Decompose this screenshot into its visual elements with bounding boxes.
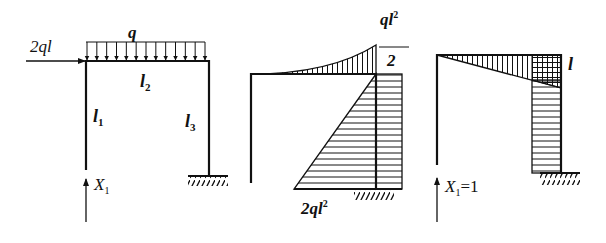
label-2ql2: 2ql2 [300, 198, 328, 218]
label-ql2-num: ql2 [380, 9, 398, 29]
rectangular-moment-region [376, 74, 402, 189]
fixed-support-3 [540, 174, 580, 185]
label-x1: X1 [93, 175, 109, 196]
label-l2: l2 [140, 71, 151, 93]
distributed-load [86, 42, 205, 60]
panel-loading: 2ql q l2 l1 l3 X1 [26, 23, 228, 222]
triangular-moment-region [294, 74, 376, 189]
fixed-support-1 [188, 176, 228, 186]
panel-mp-diagram: ql2 2 2ql2 [251, 9, 409, 218]
rectangular-unit-region [532, 80, 561, 173]
label-l3: l3 [185, 111, 196, 133]
label-l: l [568, 54, 573, 74]
panel-m1-diagram: l X1=1 [437, 54, 580, 222]
structural-diagram: 2ql q l2 l1 l3 X1 ql2 2 2ql2 [0, 0, 606, 243]
fixed-support-2 [354, 190, 394, 200]
label-l1: l1 [93, 106, 104, 128]
label-ql2-den: 2 [386, 51, 396, 70]
frame-1 [86, 61, 209, 176]
label-x1-eq-1: X1=1 [444, 177, 478, 198]
label-2ql: 2ql [30, 37, 52, 56]
label-q: q [128, 23, 137, 42]
parabolic-moment-region [251, 45, 376, 74]
